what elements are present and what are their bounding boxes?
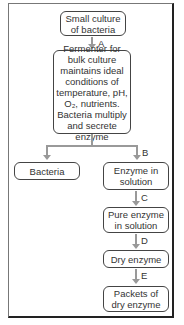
node-enzyme-solution-label: Enzyme in solution xyxy=(106,165,166,187)
arrow-bacteria-line xyxy=(46,145,48,155)
node-dry-enzyme: Dry enzyme xyxy=(103,250,169,268)
node-enzyme-solution: Enzyme in solution xyxy=(103,162,169,190)
arrow-c-label: C xyxy=(141,192,148,203)
arrow-bacteria-head xyxy=(43,155,51,160)
node-fermenter-label: Fermenter for bulk culture maintains ide… xyxy=(56,43,128,142)
node-pure-enzyme-label: Pure enzyme in solution xyxy=(106,209,166,231)
arrow-e-label: E xyxy=(141,270,147,281)
arrow-b-line xyxy=(136,145,138,155)
node-bacteria: Bacteria xyxy=(14,162,80,180)
node-bacteria-label: Bacteria xyxy=(30,166,65,177)
node-dry-enzyme-label: Dry enzyme xyxy=(111,254,162,265)
node-packets: Packets of dry enzyme xyxy=(103,286,169,312)
arrow-b-label: B xyxy=(142,147,148,158)
node-packets-label: Packets of dry enzyme xyxy=(106,288,166,310)
arrow-d-label: D xyxy=(141,235,148,246)
arrow-c-line xyxy=(135,191,137,201)
node-pure-enzyme: Pure enzyme in solution xyxy=(103,207,169,233)
node-fermenter: Fermenter for bulk culture maintains ide… xyxy=(53,50,131,134)
arrow-d-head xyxy=(132,244,140,249)
arrow-d-line xyxy=(135,234,137,244)
arrow-b-head xyxy=(133,155,141,160)
node-small-culture-label: Small culture of bacteria xyxy=(63,13,123,35)
arrow-c-head xyxy=(132,201,140,206)
arrow-e-head xyxy=(132,279,140,284)
split-bar xyxy=(46,145,138,147)
node-small-culture: Small culture of bacteria xyxy=(60,11,126,36)
arrow-e-line xyxy=(135,269,137,279)
